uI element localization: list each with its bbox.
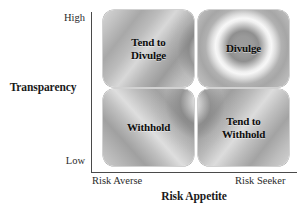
y-axis-tick-low: Low: [15, 155, 85, 167]
x-axis-title: Risk Appetite: [91, 190, 297, 202]
quadrant-grid: Tend to Divulge Divulge Withhold Tend to…: [103, 10, 289, 166]
x-axis-tick-risk-averse: Risk Averse: [92, 175, 142, 187]
quadrant-label-tend-to-withhold: Tend to Withhold: [198, 89, 289, 166]
quadrant-label-withhold: Withhold: [103, 89, 194, 166]
x-axis-line: [91, 172, 297, 173]
quadrant-label-tend-to-divulge: Tend to Divulge: [103, 10, 194, 87]
y-axis-tick-high: High: [15, 12, 85, 24]
quadrant-cell-divulge: Divulge: [198, 10, 289, 87]
quadrant-label-divulge: Divulge: [198, 10, 289, 87]
y-axis-line: [91, 12, 92, 173]
quadrant-cell-withhold: Withhold: [103, 89, 194, 166]
x-axis-tick-risk-seeker: Risk Seeker: [235, 175, 285, 187]
quadrant-matrix-figure: Transparency High Low Risk Appetite Risk…: [0, 0, 298, 207]
y-axis-title: Transparency: [0, 81, 86, 94]
quadrant-cell-tend-to-withhold: Tend to Withhold: [198, 89, 289, 166]
quadrant-cell-tend-to-divulge: Tend to Divulge: [103, 10, 194, 87]
